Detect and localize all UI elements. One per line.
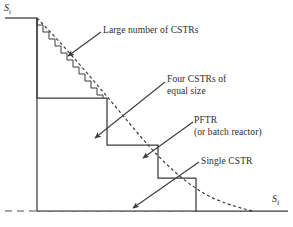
arrow-large-number-cstrs [68,32,101,56]
annotation-single-cstr: Single CSTR [201,156,253,168]
arrow-pftr [143,122,193,158]
y-axis-label-si: Si [4,2,11,16]
annotation-four-cstrs-line2: equal size [167,86,226,98]
annotation-pftr-line2: (or batch reactor) [194,127,262,139]
annotation-four-cstrs-line1: Four CSTRs of [167,74,226,86]
reactor-concentration-diagram: Si Sf Large number of CSTRs Four CSTRs o… [0,0,293,227]
arrow-single-cstr [133,162,199,208]
four-cstrs-staircase [37,18,196,178]
annotation-large-number-cstrs: Large number of CSTRs [103,25,199,37]
many-cstrs-staircase [37,18,103,98]
annotation-four-cstrs: Four CSTRs of equal size [167,74,226,97]
arrow-four-cstrs [95,82,165,138]
annotation-pftr: PFTR (or batch reactor) [194,115,262,138]
annotation-pftr-line1: PFTR [194,115,262,127]
x-axis-label-sf: Sf [272,193,279,207]
